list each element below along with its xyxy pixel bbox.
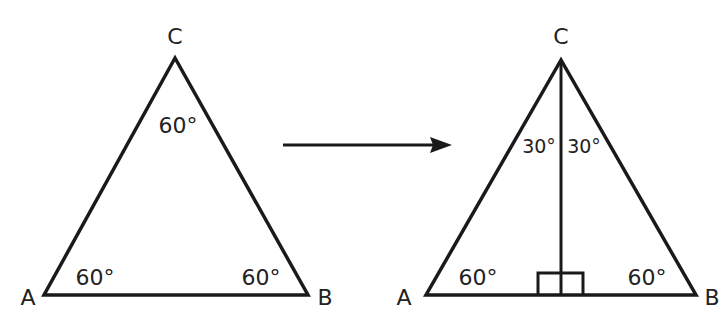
right-angle-a-label: 60° — [459, 265, 498, 290]
transformation-arrow-icon — [283, 137, 452, 153]
left-vertex-a-label: A — [20, 285, 35, 310]
right-angle-c-right-label: 30° — [567, 135, 601, 157]
arrow-head — [430, 137, 452, 153]
left-angle-b-label: 60° — [242, 265, 281, 290]
left-triangle-shape — [44, 58, 308, 295]
right-angle-b-label: 60° — [628, 265, 667, 290]
right-vertex-c-label: C — [553, 24, 568, 49]
right-bisected-triangle: C A B 30° 30° 60° 60° — [396, 24, 719, 310]
left-angle-a-label: 60° — [76, 265, 115, 290]
right-angle-c-left-label: 30° — [522, 135, 556, 157]
left-vertex-c-label: C — [167, 24, 182, 49]
left-equilateral-triangle: C A B 60° 60° 60° — [20, 24, 332, 310]
right-vertex-a-label: A — [396, 285, 411, 310]
diagram-canvas: C A B 60° 60° 60° C A B 30° 30° 60° 60° — [0, 0, 726, 315]
left-angle-c-label: 60° — [159, 113, 198, 138]
right-vertex-b-label: B — [704, 285, 719, 310]
left-vertex-b-label: B — [317, 285, 332, 310]
